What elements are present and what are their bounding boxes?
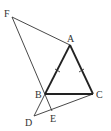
- label-E: E: [50, 113, 56, 124]
- label-B: B: [35, 89, 42, 100]
- label-F: F: [4, 8, 10, 19]
- segment-AB: [45, 45, 70, 94]
- label-A: A: [67, 33, 75, 44]
- segment-FE: [12, 17, 52, 111]
- geometry-diagram: F A B C D E: [0, 0, 111, 131]
- label-C: C: [96, 89, 103, 100]
- label-D: D: [25, 117, 32, 128]
- segment-FA: [12, 17, 70, 45]
- segment-AC: [70, 45, 93, 94]
